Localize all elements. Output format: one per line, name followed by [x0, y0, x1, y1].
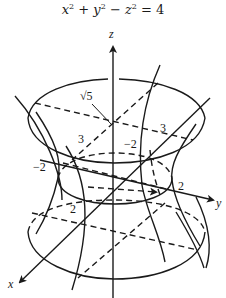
sqrt5-leader: [92, 104, 112, 125]
eq-equals: = 4: [137, 2, 164, 17]
hyperboloid-figure: x2 + y2 − z2 = 4: [0, 0, 226, 298]
z-axis-label: z: [109, 28, 114, 40]
label-top-y-3: 3: [160, 122, 166, 134]
label-waist-x-neg2: −2: [33, 161, 46, 173]
x-axis-label: x: [8, 278, 13, 290]
label-top-x-3: 3: [78, 133, 84, 145]
y-axis: [40, 160, 213, 200]
top-ellipse: [28, 79, 205, 163]
eq-x: x: [62, 2, 69, 17]
hyperboloid-diagram: [0, 0, 226, 298]
bottom-ellipse: [28, 200, 205, 279]
inner-dashed-arrow: [88, 187, 156, 192]
label-waist-x-2: 2: [70, 203, 76, 215]
label-top-y-neg2: −2: [124, 138, 137, 150]
eq-y: y: [93, 2, 100, 17]
y-axis-label: y: [216, 197, 221, 209]
equation-title: x2 + y2 − z2 = 4: [0, 2, 226, 17]
generator-curves: [15, 65, 209, 290]
eq-minus: −: [106, 2, 125, 17]
label-waist-y-2: 2: [178, 180, 184, 192]
eq-z: z: [125, 2, 132, 17]
label-sqrt5: √5: [80, 90, 93, 102]
waist-ellipse: [58, 153, 172, 204]
eq-plus: +: [74, 2, 93, 17]
